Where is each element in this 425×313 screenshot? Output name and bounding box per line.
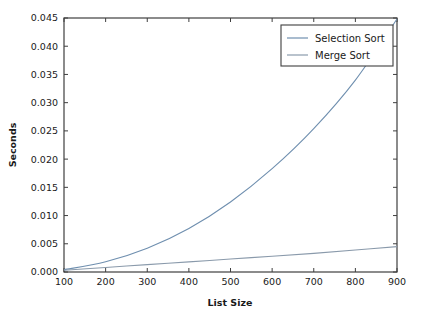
x-tick-label: 400: [180, 276, 198, 287]
y-tick-label: 0.045: [31, 12, 58, 23]
y-tick-label: 0.025: [31, 125, 58, 136]
legend-label-selection-sort: Selection Sort: [315, 33, 385, 44]
line-chart: 0.0000.0050.0100.0150.0200.0250.0300.035…: [0, 0, 425, 313]
y-tick-label: 0.015: [31, 182, 58, 193]
chart-legend[interactable]: Selection Sort Merge Sort: [281, 25, 393, 66]
x-tick-label: 900: [388, 276, 406, 287]
y-tick-label: 0.000: [31, 266, 58, 277]
y-axis-title: Seconds: [7, 122, 18, 167]
x-tick-label: 100: [55, 276, 73, 287]
x-axis-title: List Size: [208, 297, 253, 308]
x-tick-label: 800: [346, 276, 364, 287]
x-tick-label: 200: [97, 276, 115, 287]
y-tick-label: 0.030: [31, 97, 58, 108]
y-tick-label: 0.035: [31, 69, 58, 80]
chart-figure: 0.0000.0050.0100.0150.0200.0250.0300.035…: [0, 0, 425, 313]
y-tick-label: 0.010: [31, 210, 58, 221]
x-tick-label: 700: [305, 276, 323, 287]
x-tick-label: 600: [263, 276, 281, 287]
y-tick-label: 0.005: [31, 238, 58, 249]
x-tick-label: 500: [221, 276, 239, 287]
y-tick-label: 0.040: [31, 41, 58, 52]
legend-label-merge-sort: Merge Sort: [315, 50, 370, 61]
y-tick-label: 0.020: [31, 154, 58, 165]
x-tick-label: 300: [138, 276, 156, 287]
